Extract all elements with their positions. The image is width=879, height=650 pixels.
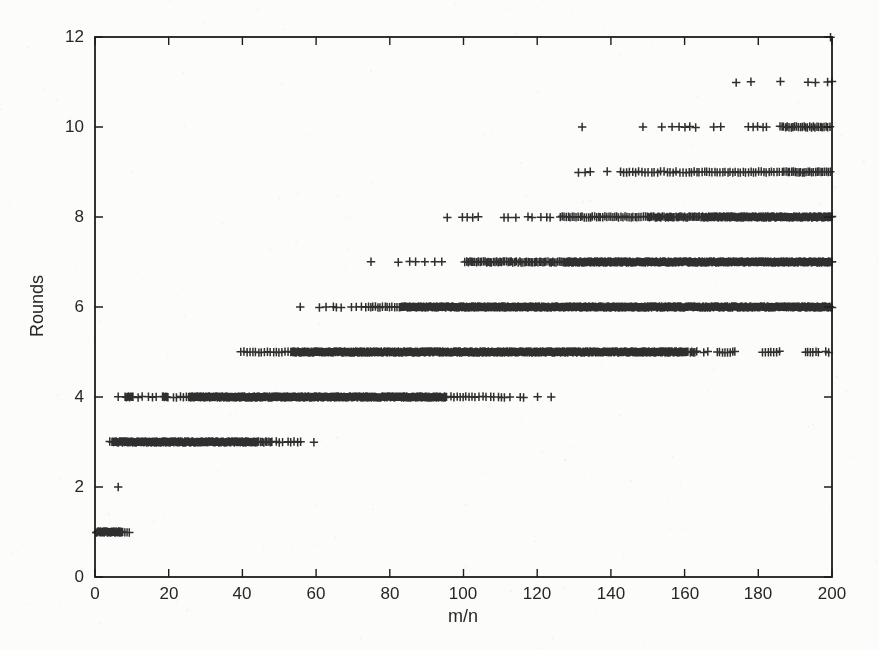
x-axis-title: m/n [423,606,503,627]
y-tick-label: 12 [36,28,84,46]
x-tick-label: 20 [144,585,194,603]
x-tick-label: 0 [70,585,120,603]
x-tick-label: 80 [365,585,415,603]
plot-canvas [0,0,879,650]
y-tick-label: 0 [36,568,84,586]
x-tick-label: 200 [807,585,857,603]
x-tick-label: 140 [586,585,636,603]
y-tick-label: 4 [36,388,84,406]
y-tick-label: 2 [36,478,84,496]
y-tick-label: 10 [36,118,84,136]
x-tick-label: 100 [438,585,488,603]
x-tick-label: 120 [512,585,562,603]
x-tick-label: 60 [291,585,341,603]
x-tick-label: 180 [733,585,783,603]
x-tick-label: 160 [660,585,710,603]
y-tick-label: 8 [36,208,84,226]
x-tick-label: 40 [217,585,267,603]
scatter-plot-figure: Rounds m/n 12 10 8 6 4 2 0 0 20 40 60 80… [0,0,879,650]
y-tick-label: 6 [36,298,84,316]
